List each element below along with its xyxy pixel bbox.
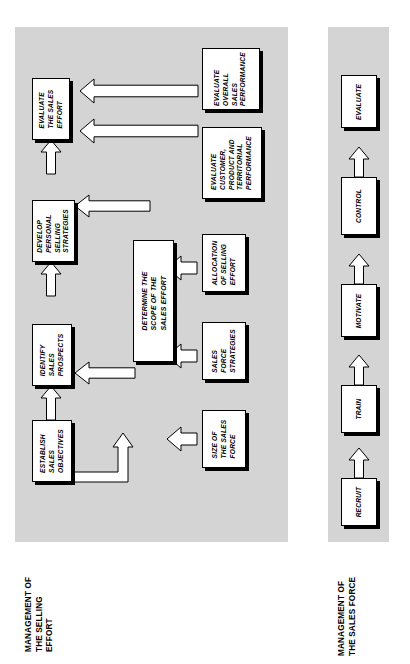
arrow-recruit-to-train [348, 448, 370, 478]
node-label: DEVELOP PERSONAL SELLING STRATEGIES [36, 209, 71, 253]
node-label: SALES FORCE STRATEGIES [211, 329, 237, 373]
node-label: CONTROL [355, 189, 364, 223]
node-label: EVALUATE OVERALL SALES PERFORMANCE [213, 52, 248, 106]
node-label: ALLOCATION OF SELLING EFFORT [211, 241, 237, 286]
arrow-establish-to-determine-scope [66, 425, 136, 487]
caption-management-of-the-selling-effort: MANAGEMENT OF THE SELLING EFFORT [24, 577, 56, 652]
arrow-evaluate-customer-performance-to-evaluate-sales-effort [80, 117, 198, 145]
node-evaluate[interactable]: EVALUATE [341, 75, 377, 128]
arrow-establish-to-identify [40, 386, 62, 420]
node-label: IDENTIFY SALES PROSPECTS [39, 334, 65, 376]
node-evaluate-the-sales-effort[interactable]: EVALUATE THE SALES EFFORT [32, 78, 70, 140]
node-train[interactable]: TRAIN [341, 385, 377, 433]
node-label: MOTIVATE [355, 293, 364, 328]
node-identify-sales-prospects[interactable]: IDENTIFY SALES PROSPECTS [32, 324, 72, 386]
node-label: ESTABLISH SALES OBJECTIVES [39, 429, 65, 473]
node-label: EVALUATE [355, 83, 364, 119]
arrow-control-to-evaluate [348, 147, 370, 177]
caption-management-of-the-sales-force: MANAGEMENT OF THE SALES FORCE [337, 577, 358, 656]
arrow-motivate-to-control [348, 254, 370, 284]
node-size-of-the-sales-force[interactable]: SIZE OF THE SALES FORCE [202, 410, 246, 468]
node-motivate[interactable]: MOTIVATE [341, 284, 377, 337]
arrow-develop-to-evaluate-sales-effort [40, 140, 62, 174]
node-determine-the-scope-of-the-sales-effort[interactable]: DETERMINE THE SCOPE OF THE SALES EFFORT [133, 240, 174, 362]
node-evaluate-overall-sales-performance[interactable]: EVALUATE OVERALL SALES PERFORMANCE [202, 48, 260, 110]
node-control[interactable]: CONTROL [341, 177, 377, 235]
arrow-determine-scope-to-identify [75, 360, 135, 386]
node-establish-sales-objectives[interactable]: ESTABLISH SALES OBJECTIVES [32, 420, 72, 482]
arrow-identify-to-develop [40, 262, 62, 296]
node-allocation-of-selling-effort[interactable]: ALLOCATION OF SELLING EFFORT [202, 234, 246, 292]
node-develop-personal-selling-strategies[interactable]: DEVELOP PERSONAL SELLING STRATEGIES [32, 200, 75, 262]
node-label: SIZE OF THE SALES FORCE [211, 420, 237, 459]
arrow-train-to-motivate [348, 355, 370, 385]
node-label: RECRUIT [355, 487, 364, 518]
node-sales-force-strategies[interactable]: SALES FORCE STRATEGIES [202, 322, 246, 380]
node-evaluate-customer-product-and-territorial-performance[interactable]: EVALUATE CUSTOMER, PRODUCT AND TERRITORI… [202, 127, 262, 199]
arrow-determine-scope-to-develop [75, 193, 150, 219]
node-label: EVALUATE THE SALES EFFORT [38, 90, 64, 129]
node-label: TRAIN [355, 398, 364, 419]
arrow-size-of-sales-force-to-determine-scope [167, 425, 197, 453]
node-label: DETERMINE THE SCOPE OF THE SALES EFFORT [140, 272, 168, 331]
node-recruit[interactable]: RECRUIT [341, 478, 377, 526]
node-label: EVALUATE CUSTOMER, PRODUCT AND TERRITORI… [210, 136, 254, 190]
arrow-evaluate-overall-performance-to-evaluate-sales-effort [80, 77, 198, 105]
